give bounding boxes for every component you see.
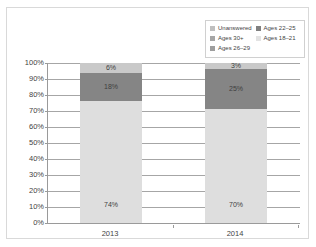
- x-axis: 2013 2014: [47, 225, 299, 243]
- bar-stack-2013[interactable]: 6% 18% 74%: [80, 63, 142, 223]
- y-tick-mark: [45, 143, 48, 144]
- y-tick-mark: [45, 159, 48, 160]
- y-tick-mark: [45, 111, 48, 112]
- y-tick-mark: [45, 63, 48, 64]
- y-tick-label: 60%: [10, 123, 44, 131]
- y-tick-label: 10%: [10, 203, 44, 211]
- chart-legend: Unanswered Ages 22–25 Ages 30+ Ages 18–2…: [205, 20, 305, 58]
- legend-label-ages-26-29: Ages 26–29: [218, 44, 250, 52]
- bar-segment-label: 74%: [104, 201, 118, 209]
- bar-stack-2014[interactable]: 3% 25% 70%: [205, 63, 267, 223]
- bar-segment-ages-18-21[interactable]: 70%: [205, 109, 267, 223]
- legend-label-ages-30-plus: Ages 30+: [218, 34, 244, 42]
- legend-swatch-ages-30-plus: [210, 36, 215, 41]
- y-tick-label: 0%: [10, 219, 44, 227]
- x-tick-mark: [173, 225, 174, 228]
- bar-segment-label: 6%: [106, 64, 116, 72]
- y-tick-label: 40%: [10, 155, 44, 163]
- legend-label-unanswered: Unanswered: [218, 24, 252, 32]
- bar-segment-label: 70%: [229, 201, 243, 209]
- y-tick-mark: [45, 127, 48, 128]
- plot-area: 6% 18% 74% 3% 25% 70%: [47, 63, 300, 224]
- y-tick-label: 20%: [10, 187, 44, 195]
- y-tick-label: 80%: [10, 91, 44, 99]
- legend-item-ages-26-29[interactable]: Ages 26–29: [210, 44, 256, 52]
- bar-segment-label: 18%: [104, 83, 118, 91]
- y-tick-label: 100%: [10, 59, 44, 67]
- bar-segment-ages-18-21[interactable]: 74%: [80, 101, 142, 223]
- legend-item-ages-18-21[interactable]: Ages 18–21: [256, 34, 302, 42]
- x-tick-mark: [298, 225, 299, 228]
- y-tick-label: 90%: [10, 75, 44, 83]
- legend-swatch-ages-26-29: [210, 46, 215, 51]
- y-tick-label: 50%: [10, 139, 44, 147]
- bar-segment-ages-26-29[interactable]: 6%: [80, 63, 142, 73]
- legend-label-ages-22-25: Ages 22–25: [264, 24, 296, 32]
- x-tick-label-2013: 2013: [75, 229, 145, 238]
- y-tick-mark: [45, 207, 48, 208]
- chart-container: Unanswered Ages 22–25 Ages 30+ Ages 18–2…: [6, 7, 309, 239]
- y-axis-labels: 100% 90% 80% 70% 60% 50% 40% 30% 20% 10%…: [7, 63, 44, 223]
- legend-swatch-unanswered: [210, 26, 215, 31]
- y-tick-mark: [45, 223, 48, 224]
- y-tick-mark: [45, 175, 48, 176]
- legend-swatch-ages-22-25: [256, 26, 261, 31]
- y-tick-label: 30%: [10, 171, 44, 179]
- legend-label-ages-18-21: Ages 18–21: [264, 34, 296, 42]
- bar-segment-ages-22-25[interactable]: 18%: [80, 73, 142, 102]
- legend-item-ages-30-plus[interactable]: Ages 30+: [210, 34, 256, 42]
- y-tick-label: 70%: [10, 107, 44, 115]
- legend-item-unanswered[interactable]: Unanswered: [210, 24, 256, 32]
- y-tick-mark: [45, 191, 48, 192]
- x-tick-label-2014: 2014: [200, 229, 270, 238]
- y-tick-mark: [45, 79, 48, 80]
- legend-item-ages-22-25[interactable]: Ages 22–25: [256, 24, 302, 32]
- bar-segment-label: 25%: [229, 85, 243, 93]
- legend-swatch-ages-18-21: [256, 36, 261, 41]
- bar-segment-ages-22-25[interactable]: 25%: [205, 69, 267, 109]
- y-tick-mark: [45, 95, 48, 96]
